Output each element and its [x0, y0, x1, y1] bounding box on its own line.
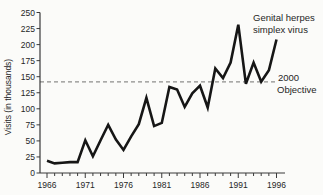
- series-annotation-line1: Genital herpes: [253, 12, 315, 23]
- y-axis-title: Visits (in thousands): [3, 59, 13, 136]
- x-tick-label: 1966: [38, 180, 57, 190]
- chart-generated-layer: 0255075100125150175200225250196619711976…: [21, 8, 286, 190]
- y-tick-label: 50: [26, 136, 36, 146]
- x-tick-label: 1986: [191, 180, 210, 190]
- y-tick-label: 250: [21, 8, 35, 18]
- x-tick-label: 1981: [152, 180, 171, 190]
- data-line: [47, 25, 277, 164]
- y-tick-label: 200: [21, 40, 35, 50]
- y-tick-label: 150: [21, 72, 35, 82]
- genital-herpes-visits-figure: 0255075100125150175200225250196619711976…: [0, 0, 323, 195]
- series-annotation-line2: simplex virus: [253, 24, 308, 35]
- y-tick-label: 175: [21, 56, 35, 66]
- x-tick-label: 1996: [267, 180, 286, 190]
- y-tick-label: 0: [30, 168, 35, 178]
- y-tick-label: 225: [21, 24, 35, 34]
- y-tick-label: 25: [26, 152, 36, 162]
- y-tick-label: 75: [26, 120, 36, 130]
- objective-annotation-line1: 2000: [278, 72, 299, 83]
- x-tick-label: 1976: [114, 180, 133, 190]
- objective-annotation-line2: Objective: [277, 84, 317, 95]
- x-tick-label: 1991: [229, 180, 248, 190]
- y-tick-label: 125: [21, 88, 35, 98]
- x-tick-label: 1971: [76, 180, 95, 190]
- y-tick-label: 100: [21, 104, 35, 114]
- line-chart: 0255075100125150175200225250196619711976…: [0, 0, 323, 195]
